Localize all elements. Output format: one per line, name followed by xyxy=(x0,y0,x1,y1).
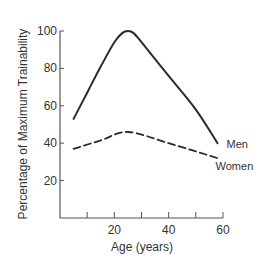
y-tick-label: 20 xyxy=(44,174,58,188)
men-label: Men xyxy=(227,138,248,150)
y-tick-label: 40 xyxy=(44,136,58,150)
y-tick-label: 80 xyxy=(44,61,58,75)
y-tick-label: 60 xyxy=(44,99,58,113)
series-lines xyxy=(74,31,218,158)
women-label: Women xyxy=(216,160,254,172)
trainability-chart: 20406080100204060 MenWomen Age (years) P… xyxy=(0,0,263,266)
x-tick-label: 20 xyxy=(108,223,122,237)
y-axis-label: Percentage of Maximum Trainability xyxy=(16,29,30,220)
y-tick-label: 100 xyxy=(37,24,57,38)
x-axis-label: Age (years) xyxy=(111,240,173,254)
x-tick-label: 60 xyxy=(216,223,230,237)
series-labels: MenWomen xyxy=(216,138,254,172)
men-line xyxy=(74,31,218,143)
women-line xyxy=(74,132,218,158)
axes: 20406080100204060 xyxy=(37,24,230,237)
x-tick-label: 40 xyxy=(162,223,176,237)
